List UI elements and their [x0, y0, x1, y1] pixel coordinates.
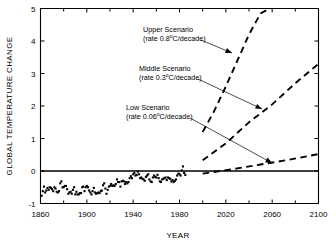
scatter-point: [88, 189, 90, 191]
scatter-point: [151, 181, 153, 183]
scatter-point: [169, 178, 171, 180]
scatter-point: [172, 179, 174, 181]
scatter-point: [123, 180, 125, 182]
y-tick-label: 2: [31, 102, 36, 111]
scatter-point: [110, 183, 112, 185]
x-axis-title: YEAR: [166, 231, 189, 240]
scatter-point: [99, 192, 101, 194]
scatter-point: [44, 191, 46, 193]
scatter-point: [51, 188, 53, 190]
scatter-point: [152, 176, 154, 178]
scatter-point: [147, 173, 149, 175]
scatter-point: [41, 195, 43, 197]
scatter-point: [59, 182, 61, 184]
scatter-point: [70, 191, 72, 193]
annotation-title: Upper Scenario: [143, 25, 193, 34]
x-tick-label: 1980: [171, 210, 189, 219]
annotation-rate: (rate 0.8oC/decade): [143, 33, 206, 43]
y-tick-label: 0: [31, 167, 36, 176]
scatter-point: [130, 175, 132, 177]
y-tick-label: 1: [31, 135, 36, 144]
scatter-point: [73, 186, 75, 188]
scatter-point: [55, 188, 57, 190]
scatter-point: [182, 165, 184, 167]
scatter-point: [116, 178, 118, 180]
scatter-point: [92, 190, 94, 192]
scatter-point: [74, 193, 76, 195]
scatter-point: [90, 193, 92, 195]
scatter-point: [160, 181, 162, 183]
scatter-point: [115, 183, 117, 185]
scatter-point: [118, 181, 120, 183]
scatter-point: [107, 189, 109, 191]
scatter-point: [103, 182, 105, 184]
scatter-point: [184, 174, 186, 176]
x-tick-label: 2020: [217, 210, 235, 219]
scatter-point: [83, 190, 85, 192]
scatter-point: [158, 177, 160, 179]
scatter-point: [52, 190, 54, 192]
y-tick-label: 3: [31, 70, 36, 79]
scatter-point: [80, 192, 82, 194]
y-tick-label: -1: [28, 200, 36, 209]
scatter-point: [45, 189, 47, 191]
scatter-point: [43, 186, 45, 188]
scatter-point: [119, 186, 121, 188]
scatter-point: [66, 188, 68, 190]
scatter-point: [104, 188, 106, 190]
scatter-point: [181, 169, 183, 171]
annotation-title: Low Scenario: [126, 103, 170, 112]
scatter-point: [136, 174, 138, 176]
scatter-point: [176, 175, 178, 177]
scatter-point: [71, 193, 73, 195]
annotation-rate: (rate 0.06oC/decade): [126, 111, 193, 121]
scatter-point: [93, 187, 95, 189]
scatter-point: [87, 186, 89, 188]
scatter-point: [72, 189, 74, 191]
y-tick-label: 5: [31, 5, 36, 14]
scatter-point: [133, 172, 135, 174]
global-temperature-chart: 1860190019401980202020602100 -1012345 Up…: [0, 0, 336, 246]
x-tick-label: 2100: [310, 210, 328, 219]
annotation-title: Middle Scenario: [139, 64, 191, 73]
scatter-point: [48, 189, 50, 191]
scatter-point: [183, 172, 185, 174]
scatter-point: [127, 181, 129, 183]
scatter-point: [131, 177, 133, 179]
scatter-point: [138, 173, 140, 175]
scatter-point: [148, 178, 150, 180]
scatter-point: [42, 190, 44, 192]
scatter-point: [180, 175, 182, 177]
annotation-rate: (rate 0.3oC/decade): [139, 72, 202, 82]
scatter-point: [144, 180, 146, 182]
figure-container: 1860190019401980202020602100 -1012345 Up…: [0, 0, 336, 246]
scatter-point: [124, 183, 126, 185]
scatter-point: [165, 176, 167, 178]
scatter-point: [82, 186, 84, 188]
scatter-point: [75, 191, 77, 193]
scatter-point: [65, 185, 67, 187]
x-tick-label: 2060: [263, 210, 281, 219]
scatter-point: [89, 191, 91, 193]
scatter-point: [129, 177, 131, 179]
scatter-point: [58, 190, 60, 192]
scatter-point: [166, 179, 168, 181]
scatter-point: [46, 187, 48, 189]
y-tick-label: 4: [31, 37, 36, 46]
x-tick-label: 1860: [32, 210, 50, 219]
scatter-point: [60, 180, 62, 182]
scatter-point: [175, 178, 177, 180]
y-axis-title: GLOBAL TEMPERATURE CHANGE: [5, 37, 14, 176]
x-tick-label: 1900: [78, 210, 96, 219]
scatter-point: [156, 174, 158, 176]
scatter-point: [105, 193, 107, 195]
scatter-point: [102, 184, 104, 186]
scatter-point: [155, 176, 157, 178]
scatter-point: [114, 185, 116, 187]
scatter-point: [109, 185, 111, 187]
x-tick-label: 1940: [124, 210, 142, 219]
scatter-point: [137, 171, 139, 173]
scatter-point: [101, 189, 103, 191]
